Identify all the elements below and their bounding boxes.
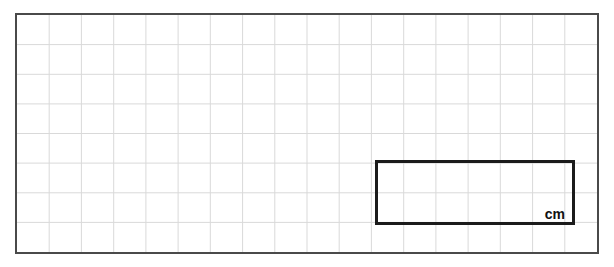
unit-label: cm [545, 207, 565, 221]
worksheet-canvas: cm [0, 0, 614, 267]
rectangle-shape: cm [375, 160, 575, 225]
